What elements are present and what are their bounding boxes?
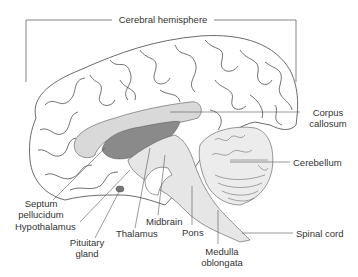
label-corpus-callosum-line2: callosum	[304, 118, 352, 129]
label-pituitary-gland-line1: Pituitary	[64, 237, 110, 248]
label-pituitary-gland-line2: gland	[64, 248, 110, 259]
label-hypothalamus: Hypothalamus	[15, 221, 76, 232]
label-septum-pellucidum-line1: Septum	[16, 198, 66, 209]
label-spinal-cord: Spinal cord	[296, 228, 344, 239]
label-medulla-oblongata-line1: Medulla	[198, 246, 246, 257]
label-septum-pellucidum-line2: pellucidum	[16, 209, 66, 220]
label-cerebellum: Cerebellum	[293, 157, 342, 168]
pituitary-gland	[116, 186, 124, 192]
label-medulla-oblongata-line2: oblongata	[198, 257, 246, 268]
label-corpus-callosum-line1: Corpus	[304, 107, 352, 118]
label-pons: Pons	[182, 227, 204, 238]
label-thalamus: Thalamus	[116, 228, 158, 239]
label-midbrain: Midbrain	[146, 216, 182, 227]
cerebellum	[199, 127, 273, 205]
label-cerebral-hemisphere: Cerebral hemisphere	[115, 14, 211, 25]
